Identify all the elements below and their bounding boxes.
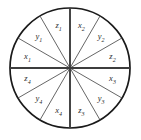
label-subscript: 4: [59, 110, 62, 116]
label-subscript: 4: [28, 79, 31, 85]
label-subscript: 1: [59, 25, 62, 31]
figure-container: x2y2z2x3y3z3x4y4z4x1y1z1: [0, 0, 141, 140]
label-subscript: 1: [39, 37, 42, 43]
label-subscript: 1: [28, 56, 31, 62]
label-subscript: 2: [102, 37, 105, 43]
label-subscript: 2: [82, 25, 85, 31]
label-subscript: 3: [112, 79, 116, 85]
label-subscript: 3: [81, 110, 85, 116]
sector-circle-diagram: x2y2z2x3y3z3x4y4z4x1y1z1: [0, 0, 141, 140]
label-subscript: 3: [101, 99, 105, 105]
label-subscript: 4: [39, 99, 42, 105]
label-subscript: 2: [113, 56, 116, 62]
